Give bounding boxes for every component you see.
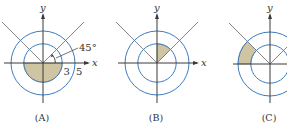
- y-axis-label: y: [266, 2, 273, 13]
- figure-a: x y (A) 45° 3 5: [2, 2, 98, 123]
- figure-caption: (B): [149, 112, 163, 123]
- y-axis-arrow-icon: [268, 13, 272, 19]
- x-axis-label: x: [201, 57, 207, 68]
- polar-regions-diagram: x y (A) 45° 3 5 x y (B) x y: [0, 0, 287, 131]
- x-axis-label: x: [92, 57, 98, 68]
- x-axis-arrow-icon: [84, 61, 90, 65]
- diagonal-line-45: [270, 23, 287, 64]
- radius-label-outer: 5: [76, 66, 82, 77]
- y-axis-arrow-icon: [155, 13, 159, 19]
- angle-label: 45°: [79, 42, 97, 53]
- figure-caption: (C): [262, 112, 277, 123]
- y-axis-arrow-icon: [41, 13, 45, 19]
- y-axis-label: y: [153, 2, 160, 13]
- diagonal-line-135: [2, 22, 43, 63]
- x-axis-arrow-icon: [193, 61, 199, 65]
- shaded-region: [238, 41, 256, 64]
- y-axis-label: y: [39, 2, 46, 13]
- diagonal-line-135: [116, 22, 157, 63]
- shaded-region: [157, 44, 171, 63]
- figure-b: x y (B): [116, 2, 207, 123]
- diagonal-line-45: [157, 22, 198, 63]
- radius-label-inner: 3: [64, 66, 70, 77]
- diagonal-line-45: [43, 22, 84, 63]
- figure-caption: (A): [35, 112, 49, 123]
- figure-c: x y (C): [229, 2, 287, 123]
